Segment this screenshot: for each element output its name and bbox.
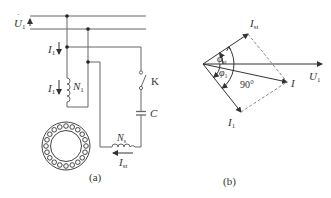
- junction-dots: [65, 14, 90, 64]
- motor-stator-icon: [42, 122, 90, 170]
- label-phi-st: φst: [217, 53, 227, 65]
- label-switch: K: [151, 75, 159, 87]
- switch-blade: [141, 75, 146, 87]
- label-phasor-voltage: U1: [309, 70, 321, 84]
- diagram-canvas: U1 · I1 I1 N1 K C Ns Ist (a) Ist U1 I I1…: [0, 0, 331, 198]
- label-angle-90: 90°: [240, 79, 254, 90]
- switch-contact-top: [139, 71, 142, 74]
- label-capacitor: C: [150, 107, 158, 119]
- label-line-current: I1: [47, 43, 56, 57]
- switch-contact-bottom: [139, 86, 142, 89]
- label-start-current: Ist: [118, 156, 127, 170]
- phasor-dot: ·: [17, 10, 20, 19]
- label-phasor-main-current: I1: [227, 116, 236, 130]
- caption-b: (b): [223, 175, 236, 188]
- label-start-winding: Ns: [116, 132, 127, 144]
- label-supply-voltage: U1: [14, 17, 26, 31]
- main-winding-coil: [67, 78, 70, 102]
- label-phasor-start-current: Ist: [249, 17, 258, 31]
- label-phasor-total-current: I: [290, 77, 296, 89]
- caption-a: (a): [89, 171, 102, 184]
- start-winding-coil: [112, 144, 135, 147]
- label-main-current: I1: [47, 82, 56, 96]
- label-main-winding: N1: [72, 80, 84, 94]
